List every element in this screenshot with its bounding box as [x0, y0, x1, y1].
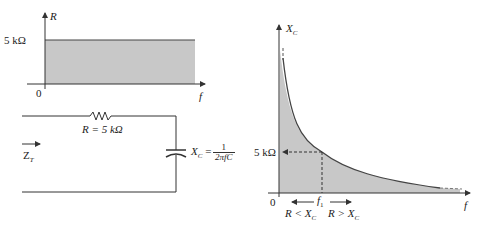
left-region-label: R < XC — [285, 208, 316, 222]
resistor-symbol — [90, 112, 111, 120]
xc-y-sub: C — [293, 29, 298, 37]
right-region-main: R > X — [328, 207, 354, 219]
resistance-area — [45, 40, 195, 84]
zt-label: ZT — [23, 150, 34, 164]
xc-fraction: 12πfC — [213, 143, 235, 163]
resistor-label: R = 5 kΩ — [82, 124, 123, 135]
reactance-area — [279, 50, 460, 193]
left-region-main: R < X — [285, 207, 311, 219]
xc-y-label: XC — [286, 23, 297, 37]
f1-sub: 1 — [320, 201, 324, 209]
r-y-label: R — [50, 11, 57, 22]
xc-formula-lhs: XC = — [191, 146, 211, 160]
r-x-label: f — [199, 91, 202, 102]
xc-sub: C — [198, 152, 203, 160]
zt-sub: T — [30, 156, 34, 164]
right-region-sub: C — [354, 214, 359, 222]
r-origin-label: 0 — [36, 88, 42, 99]
xc-eq: = — [205, 145, 211, 157]
r-level-label: 5 kΩ — [4, 35, 26, 46]
fraction-denominator: 2πfC — [213, 153, 235, 162]
xc-level-label: 5 kΩ — [254, 147, 276, 158]
reactance-plot — [268, 25, 470, 202]
xc-x: X — [191, 145, 198, 157]
resistance-plot — [27, 13, 205, 89]
xc-y-main: X — [286, 22, 293, 34]
xc-x-label: f — [464, 200, 467, 211]
xc-origin-label: 0 — [270, 197, 276, 208]
left-region-sub: C — [311, 214, 316, 222]
zt-main: Z — [23, 149, 30, 161]
f1-label: f1 — [317, 195, 324, 209]
diagram-canvas — [0, 0, 490, 230]
right-region-label: R > XC — [328, 208, 359, 222]
